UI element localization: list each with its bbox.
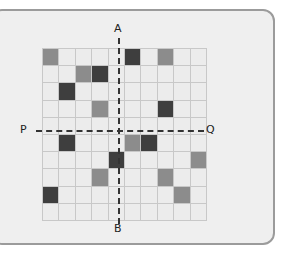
grid-cell <box>141 101 156 117</box>
grid-cell <box>109 187 124 203</box>
grid-cell <box>191 187 206 203</box>
grid-cell <box>59 135 74 151</box>
grid-cell <box>109 135 124 151</box>
grid-cell <box>109 169 124 185</box>
grid-cell <box>158 135 173 151</box>
grid-cell <box>141 187 156 203</box>
grid-cell <box>158 204 173 220</box>
grid-cell <box>109 66 124 82</box>
grid-cell <box>141 66 156 82</box>
grid-cell <box>59 66 74 82</box>
grid-cell <box>141 83 156 99</box>
grid-cell <box>158 169 173 185</box>
axis-line-pq <box>36 130 204 132</box>
grid-cell <box>109 101 124 117</box>
grid-cell <box>174 83 189 99</box>
grid-cell <box>59 101 74 117</box>
grid-cell <box>59 204 74 220</box>
label-a: A <box>114 22 122 35</box>
grid-cell <box>76 101 91 117</box>
grid-cell <box>43 83 58 99</box>
grid-cell <box>141 49 156 65</box>
grid-cell <box>158 152 173 168</box>
grid-cell <box>109 152 124 168</box>
grid-cell <box>92 169 107 185</box>
grid-cell <box>191 204 206 220</box>
grid-cell <box>125 49 140 65</box>
grid-cell <box>141 169 156 185</box>
grid-cell <box>158 66 173 82</box>
grid-cell <box>76 83 91 99</box>
label-q: Q <box>206 123 215 136</box>
grid-cell <box>43 49 58 65</box>
label-p: P <box>20 123 27 136</box>
grid-cell <box>92 187 107 203</box>
grid-cell <box>76 135 91 151</box>
label-b: B <box>114 222 122 235</box>
grid-cell <box>174 187 189 203</box>
grid-cell <box>43 66 58 82</box>
grid-cell <box>76 204 91 220</box>
grid-cell <box>43 101 58 117</box>
grid-cell <box>92 101 107 117</box>
grid-cell <box>92 83 107 99</box>
grid-cell <box>76 152 91 168</box>
grid-cell <box>59 187 74 203</box>
grid-cell <box>125 169 140 185</box>
grid-cell <box>92 135 107 151</box>
grid-cell <box>125 83 140 99</box>
grid-cell <box>59 49 74 65</box>
shaded-grid <box>42 48 207 221</box>
grid-cell <box>158 83 173 99</box>
grid-cell <box>43 135 58 151</box>
grid-cell <box>191 49 206 65</box>
grid-cell <box>125 187 140 203</box>
grid-cell <box>43 169 58 185</box>
grid-cell <box>174 66 189 82</box>
grid-cell <box>76 187 91 203</box>
grid-cell <box>141 204 156 220</box>
grid-cell <box>125 66 140 82</box>
grid-cell <box>125 101 140 117</box>
grid-cell <box>59 152 74 168</box>
grid-cell <box>76 49 91 65</box>
grid-cell <box>141 152 156 168</box>
grid-cell <box>76 66 91 82</box>
grid-cell <box>109 204 124 220</box>
grid-cell <box>191 152 206 168</box>
grid-cell <box>43 204 58 220</box>
grid-cell <box>59 169 74 185</box>
grid-cell <box>191 66 206 82</box>
grid-cell <box>125 152 140 168</box>
grid-cell <box>191 169 206 185</box>
grid-cell <box>92 152 107 168</box>
grid-cell <box>92 49 107 65</box>
grid-cell <box>43 187 58 203</box>
grid-cell <box>174 101 189 117</box>
grid-cell <box>174 169 189 185</box>
grid-cell <box>174 135 189 151</box>
grid-cell <box>191 101 206 117</box>
grid-cell <box>92 66 107 82</box>
grid-cell <box>158 101 173 117</box>
grid-cell <box>43 152 58 168</box>
grid-cell <box>125 204 140 220</box>
grid-cell <box>125 135 140 151</box>
grid-cell <box>158 49 173 65</box>
grid-cell <box>109 83 124 99</box>
grid-cell <box>158 187 173 203</box>
grid-cell <box>76 169 91 185</box>
grid-cell <box>109 49 124 65</box>
grid-cell <box>174 152 189 168</box>
grid-cell <box>92 204 107 220</box>
grid-cell <box>59 83 74 99</box>
grid-cell <box>174 49 189 65</box>
grid-cell <box>191 135 206 151</box>
grid-cell <box>141 135 156 151</box>
grid-cell <box>174 204 189 220</box>
grid-cell <box>191 83 206 99</box>
